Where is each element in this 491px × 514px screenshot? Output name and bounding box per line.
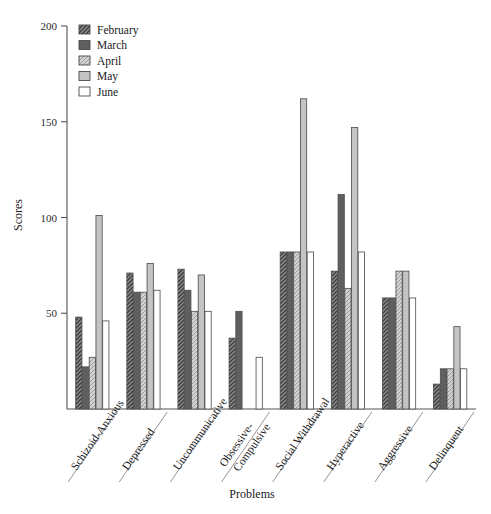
bar [382,298,388,409]
bar [198,275,204,409]
bar [103,321,109,409]
bar [280,252,286,409]
y-tick-label: 150 [41,116,58,128]
category-label-aggressive: Aggressive [375,423,415,473]
bar [205,311,211,409]
bar [147,263,153,409]
chart-canvas: 50100150200 Schizoid-AnxiousDepressedUnc… [0,0,491,514]
bar [140,292,146,409]
bar [76,317,82,409]
bar [300,99,306,409]
category-label-obsessive-compulsive: Obsessive-Compulsive [217,413,273,477]
bar [191,311,197,409]
bar [185,290,191,409]
legend-swatch-march[interactable] [79,41,90,50]
bar [294,252,300,409]
bar [440,369,446,409]
bar [256,357,262,409]
x-axis-title: Problems [229,487,275,501]
bar [352,128,358,410]
bars [76,99,467,409]
bar [447,369,453,409]
category-label-delinquent: Delinquent [426,423,466,473]
y-axis-title: Scores [11,199,25,231]
legend-label-march: March [97,39,127,51]
legend-label-may: May [97,70,118,83]
bar [287,252,293,409]
category-label-text: Aggressive [375,423,415,473]
bar [403,271,409,409]
bar [345,288,351,409]
legend: FebruaryMarchAprilMayJune [79,24,139,98]
legend-swatch-may[interactable] [79,72,90,81]
bar [454,327,460,409]
bar [127,273,133,409]
legend-swatch-april[interactable] [79,56,90,65]
bar [434,384,440,409]
legend-label-february: February [97,24,139,37]
bar [389,298,395,409]
bar [89,357,95,409]
category-label-text: Depressed [119,426,157,473]
bar [409,298,415,409]
bar [154,290,160,409]
category-label-text: Delinquent [426,423,466,473]
bar [96,216,102,409]
bar [134,292,140,409]
category-label-hyperactive: Hyperactive [324,419,367,472]
bar [461,369,467,409]
bar [396,271,402,409]
y-tick-label: 200 [41,20,58,32]
y-tick-label: 50 [46,307,58,319]
bar [229,338,235,409]
bar [178,269,184,409]
legend-swatch-june[interactable] [79,87,90,96]
legend-swatch-february[interactable] [79,25,90,34]
bar [82,367,88,409]
category-label-depressed: Depressed [119,426,157,473]
bar [236,311,242,409]
bar [358,252,364,409]
bar [338,195,344,409]
category-label-text: Hyperactive [324,419,367,472]
legend-label-june: June [97,86,118,98]
bar [331,271,337,409]
y-tick-label: 100 [41,212,58,224]
bar-chart: 50100150200 Schizoid-AnxiousDepressedUnc… [0,0,491,514]
legend-label-april: April [97,55,121,68]
bar [307,252,313,409]
